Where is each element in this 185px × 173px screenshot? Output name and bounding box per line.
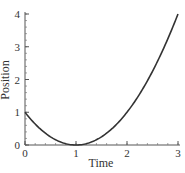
- axes: [25, 12, 180, 145]
- x-tick-label: 3: [175, 147, 181, 159]
- x-axis-label: Time: [89, 156, 114, 170]
- y-tick-label: 3: [15, 41, 21, 53]
- position-curve: [25, 14, 178, 145]
- x-tick-label: 0: [22, 147, 28, 159]
- y-tick-label: 4: [15, 8, 21, 20]
- x-tick-label: 1: [73, 147, 79, 159]
- ticks: 012301234: [15, 8, 182, 159]
- position-time-chart: 012301234 Time Position: [0, 0, 185, 173]
- y-tick-label: 0: [15, 139, 21, 151]
- y-axis-label: Position: [0, 60, 12, 99]
- x-tick-label: 2: [124, 147, 130, 159]
- y-tick-label: 2: [15, 74, 21, 86]
- y-tick-label: 1: [15, 106, 21, 118]
